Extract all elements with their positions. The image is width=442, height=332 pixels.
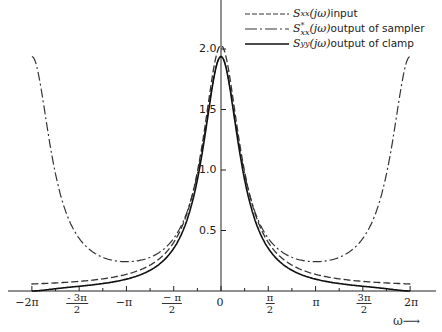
x-tick-marks — [32, 286, 410, 291]
legend-item-sampler: S*xx(jω) output of sampler — [245, 21, 424, 36]
y-tick-label: 1.0 — [199, 163, 217, 176]
x-tick-label: −2π — [15, 296, 38, 309]
dashed-line-swatch — [245, 11, 289, 17]
x-tick-label: −π — [116, 296, 132, 309]
legend-item-input: Sxx(jω) input — [245, 6, 424, 21]
x-tick-label: 2π — [404, 296, 418, 309]
x-tick-label: 0 — [217, 296, 224, 309]
x-tick-label: - 3π 2 — [66, 292, 88, 315]
legend-item-clamp: Syy(jω) output of clamp — [245, 36, 424, 51]
y-tick-marks — [221, 49, 226, 231]
y-tick-label: 2.0 — [199, 42, 217, 55]
y-tick-label: 0.5 — [199, 224, 217, 237]
x-tick-label: π — [312, 296, 319, 309]
dash-dot-line-swatch — [245, 26, 289, 32]
x-tick-label: π 2 — [266, 292, 275, 315]
solid-line-swatch — [245, 41, 289, 47]
x-tick-label: 3π 2 — [357, 292, 372, 315]
x-tick-label: − π 2 — [162, 292, 182, 315]
x-axis-label: ω⟶ — [393, 314, 420, 328]
y-tick-label: 1.5 — [199, 103, 217, 116]
legend: Sxx(jω) input S*xx(jω) output of sampler… — [245, 6, 424, 51]
